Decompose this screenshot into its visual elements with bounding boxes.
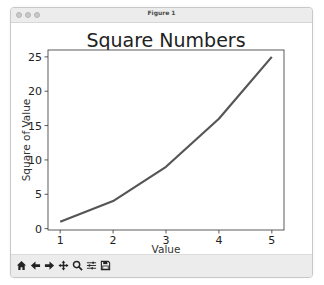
y-tick-label: 0 [35,223,42,236]
axes-frame [48,50,284,230]
y-tick-label: 25 [28,51,42,64]
x-tick-label: 1 [57,234,64,247]
y-tick-label: 5 [35,188,42,201]
x-axis-label: Value [152,243,181,255]
x-tick-label: 4 [215,234,222,247]
y-axis-label: Square of Value [20,99,32,182]
chart: Square Numbers 12345 0510152025 Value Sq… [0,0,324,285]
chart-title: Square Numbers [86,29,245,51]
x-tick-label: 5 [268,234,275,247]
x-tick-label: 2 [110,234,117,247]
y-tick-label: 20 [28,85,42,98]
